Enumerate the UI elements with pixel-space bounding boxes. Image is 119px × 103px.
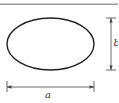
arrow-right-icon — [90, 85, 95, 88]
arrow-down-icon — [109, 66, 112, 71]
width-label: a — [45, 89, 51, 100]
arrow-left-icon — [7, 85, 12, 88]
height-label: b — [114, 37, 119, 48]
top-rule — [0, 4, 118, 6]
arrow-up-icon — [109, 18, 112, 23]
ellipse-shape — [7, 18, 94, 70]
ellipse-diagram: b a — [0, 0, 118, 103]
